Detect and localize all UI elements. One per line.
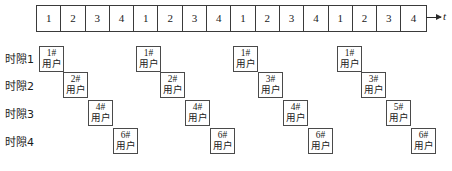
timeline-cell: 2 (353, 6, 377, 31)
timeline-cell: 2 (61, 6, 85, 31)
user-slot-box: 6#用户 (113, 128, 138, 154)
user-slot-word: 用户 (414, 141, 434, 151)
user-slot-word: 用户 (213, 141, 233, 151)
timeline-cell: 3 (280, 6, 304, 31)
slot-row-label: 时隙2 (5, 77, 34, 93)
user-slot-word: 用户 (364, 85, 384, 95)
user-slot-box: 3#用户 (361, 72, 386, 98)
timeline-cell: 1 (231, 6, 255, 31)
user-slot-word: 用户 (139, 59, 159, 69)
timeline-cell: 2 (158, 6, 182, 31)
user-slot-word: 用户 (261, 85, 281, 95)
user-slot-word: 用户 (66, 85, 86, 95)
user-slot-box: 3#用户 (258, 72, 283, 98)
time-axis-arrow-icon (426, 17, 441, 18)
timeline-cell: 3 (86, 6, 110, 31)
user-slot-word: 用户 (163, 85, 183, 95)
slot-row-label: 时隙3 (5, 105, 34, 121)
timeline-cell: 4 (207, 6, 231, 31)
user-slot-word: 用户 (188, 113, 208, 123)
timeline-cell: 1 (329, 6, 353, 31)
user-slot-word: 用户 (236, 59, 256, 69)
timeslot-allocation-diagram: 1234123412341234 t 时隙11#用户1#用户1#用户1#用户时隙… (0, 0, 452, 171)
timeline-cell: 3 (183, 6, 207, 31)
user-slot-word: 用户 (389, 113, 409, 123)
slot-row-label: 时隙1 (5, 50, 34, 66)
user-slot-box: 1#用户 (233, 46, 258, 72)
user-slot-box: 4#用户 (185, 100, 210, 126)
user-slot-box: 2#用户 (63, 72, 88, 98)
time-axis-label: t (443, 10, 446, 22)
slot-row-label: 时隙4 (5, 133, 34, 149)
user-slot-box: 4#用户 (283, 100, 308, 126)
user-slot-box: 1#用户 (136, 46, 161, 72)
user-slot-box: 1#用户 (39, 46, 64, 72)
user-slot-box: 5#用户 (386, 100, 411, 126)
timeline-cell: 1 (134, 6, 158, 31)
user-slot-box: 6#用户 (411, 128, 436, 154)
timeline-cell: 3 (377, 6, 401, 31)
user-slot-box: 1#用户 (337, 46, 362, 72)
user-slot-word: 用户 (42, 59, 62, 69)
user-slot-box: 6#用户 (308, 128, 333, 154)
user-slot-word: 用户 (286, 113, 306, 123)
timeline-strip: 1234123412341234 (36, 5, 427, 32)
user-slot-word: 用户 (311, 141, 331, 151)
timeline-cell: 4 (304, 6, 328, 31)
timeline-cell: 2 (256, 6, 280, 31)
timeline-cell: 4 (401, 6, 425, 31)
user-slot-word: 用户 (340, 59, 360, 69)
user-slot-box: 6#用户 (210, 128, 235, 154)
user-slot-word: 用户 (116, 141, 136, 151)
timeline-cell: 4 (110, 6, 134, 31)
user-slot-word: 用户 (91, 113, 111, 123)
user-slot-box: 4#用户 (88, 100, 113, 126)
user-slot-box: 2#用户 (160, 72, 185, 98)
timeline-cell: 1 (37, 6, 61, 31)
